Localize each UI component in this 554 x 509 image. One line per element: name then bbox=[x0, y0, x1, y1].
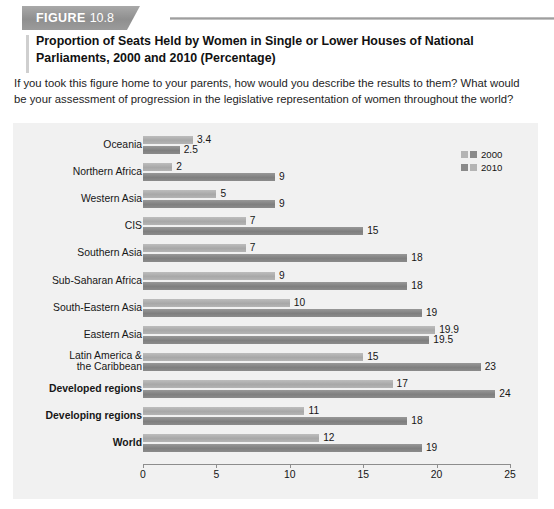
bar-value-label: 19.5 bbox=[433, 334, 453, 345]
bar-2010 bbox=[143, 254, 407, 262]
bar-value-label: 12 bbox=[323, 432, 334, 443]
bar-value-label: 23 bbox=[485, 361, 496, 372]
category-label: Latin America &the Caribbean bbox=[0, 350, 142, 373]
category-label: Western Asia bbox=[0, 193, 142, 205]
x-axis-tick-label: 10 bbox=[284, 469, 296, 480]
bar-value-label: 18 bbox=[411, 252, 422, 263]
bar-2010 bbox=[143, 200, 275, 208]
bar-value-label: 3.4 bbox=[197, 134, 211, 145]
x-axis-tick-label: 25 bbox=[504, 469, 516, 480]
figure-title-block: Proportion of Seats Held by Women in Sin… bbox=[36, 33, 536, 66]
bar-2000 bbox=[143, 163, 172, 171]
bar-2000 bbox=[143, 299, 290, 307]
category-label-line: Latin America & bbox=[0, 350, 142, 362]
bar-2010 bbox=[143, 336, 429, 344]
bar-2010 bbox=[143, 227, 363, 235]
bar-value-label: 15 bbox=[367, 225, 378, 236]
legend-label-2010: 2010 bbox=[481, 162, 502, 173]
bar-value-label: 17 bbox=[397, 378, 408, 389]
bar-value-label: 18 bbox=[411, 280, 422, 291]
figure-badge-number: 10.8 bbox=[90, 11, 114, 25]
legend-swatch-light-icon bbox=[461, 151, 468, 158]
bar-2000 bbox=[143, 136, 193, 144]
legend-swatch-light-icon bbox=[470, 164, 477, 171]
bar-value-label: 10 bbox=[294, 297, 305, 308]
bar-value-label: 9 bbox=[279, 198, 285, 209]
x-axis-tick bbox=[216, 464, 217, 468]
bar-2000 bbox=[143, 407, 304, 415]
x-axis-tick bbox=[510, 464, 511, 468]
x-axis-tick bbox=[437, 464, 438, 468]
legend-item-2010: 2010 bbox=[461, 162, 502, 173]
bar-2000 bbox=[143, 326, 435, 334]
x-axis-tick-label: 20 bbox=[431, 469, 443, 480]
bar-value-label: 7 bbox=[250, 242, 256, 253]
bar-2000 bbox=[143, 217, 246, 225]
category-label: Developed regions bbox=[0, 383, 142, 395]
x-axis-tick-label: 5 bbox=[214, 469, 220, 480]
figure-badge-word: FIGURE bbox=[36, 11, 86, 25]
bar-value-label: 5 bbox=[220, 188, 226, 199]
bar-value-label: 19 bbox=[426, 442, 437, 453]
bar-value-label: 15 bbox=[367, 351, 378, 362]
x-axis-tick bbox=[143, 464, 144, 468]
legend-label-2000: 2000 bbox=[481, 149, 502, 160]
x-axis-tick-label: 15 bbox=[357, 469, 369, 480]
category-label: Sub-Saharan Africa bbox=[0, 275, 142, 287]
x-axis-line bbox=[143, 464, 510, 465]
legend-swatch-dark-icon bbox=[461, 164, 468, 171]
category-label: South-Eastern Asia bbox=[0, 302, 142, 314]
bar-value-label: 7 bbox=[250, 215, 256, 226]
chart-plot-area: 2000 2010 Oceania3.42.5Northern Africa29… bbox=[13, 123, 538, 499]
bar-2000 bbox=[143, 244, 246, 252]
figure-badge: FIGURE 10.8 bbox=[22, 6, 140, 30]
category-label: Eastern Asia bbox=[0, 329, 142, 341]
bar-2010 bbox=[143, 173, 275, 181]
figure-header: FIGURE 10.8 bbox=[0, 3, 554, 30]
bar-2000 bbox=[143, 434, 319, 442]
bar-2000 bbox=[143, 272, 275, 280]
category-label-line: the Caribbean bbox=[0, 361, 142, 373]
bar-value-label: 2 bbox=[176, 161, 182, 172]
bar-value-label: 9 bbox=[279, 171, 285, 182]
category-label: Oceania bbox=[0, 139, 142, 151]
x-axis-tick bbox=[290, 464, 291, 468]
bar-2010 bbox=[143, 309, 422, 317]
title-accent-bar bbox=[26, 35, 29, 73]
chart-legend: 2000 2010 bbox=[461, 149, 502, 175]
category-label: Developing regions bbox=[0, 410, 142, 422]
bar-2010 bbox=[143, 417, 407, 425]
bar-value-label: 11 bbox=[308, 405, 319, 416]
bar-2000 bbox=[143, 190, 216, 198]
bar-2000 bbox=[143, 380, 393, 388]
bar-value-label: 2.5 bbox=[184, 144, 198, 155]
category-label: CIS bbox=[0, 220, 142, 232]
category-label: World bbox=[0, 437, 142, 449]
bar-2000 bbox=[143, 353, 363, 361]
chart-panel: 2000 2010 Oceania3.42.5Northern Africa29… bbox=[13, 123, 538, 499]
category-label: Southern Asia bbox=[0, 247, 142, 259]
bar-2010 bbox=[143, 444, 422, 452]
bar-2010 bbox=[143, 282, 407, 290]
bar-value-label: 18 bbox=[411, 415, 422, 426]
figure-prompt-text: If you took this figure home to your par… bbox=[14, 76, 534, 107]
legend-swatch-dark-icon bbox=[470, 151, 477, 158]
bar-2010 bbox=[143, 390, 495, 398]
category-label: Northern Africa bbox=[0, 166, 142, 178]
bar-2010 bbox=[143, 363, 481, 371]
bar-value-label: 24 bbox=[499, 388, 510, 399]
bar-value-label: 19 bbox=[426, 307, 437, 318]
x-axis-tick-label: 0 bbox=[140, 469, 146, 480]
x-axis-tick bbox=[363, 464, 364, 468]
page-title: Proportion of Seats Held by Women in Sin… bbox=[36, 33, 536, 66]
bar-value-label: 9 bbox=[279, 270, 285, 281]
figure-header-rule bbox=[170, 17, 554, 20]
bar-2010 bbox=[143, 146, 180, 154]
legend-item-2000: 2000 bbox=[461, 149, 502, 160]
